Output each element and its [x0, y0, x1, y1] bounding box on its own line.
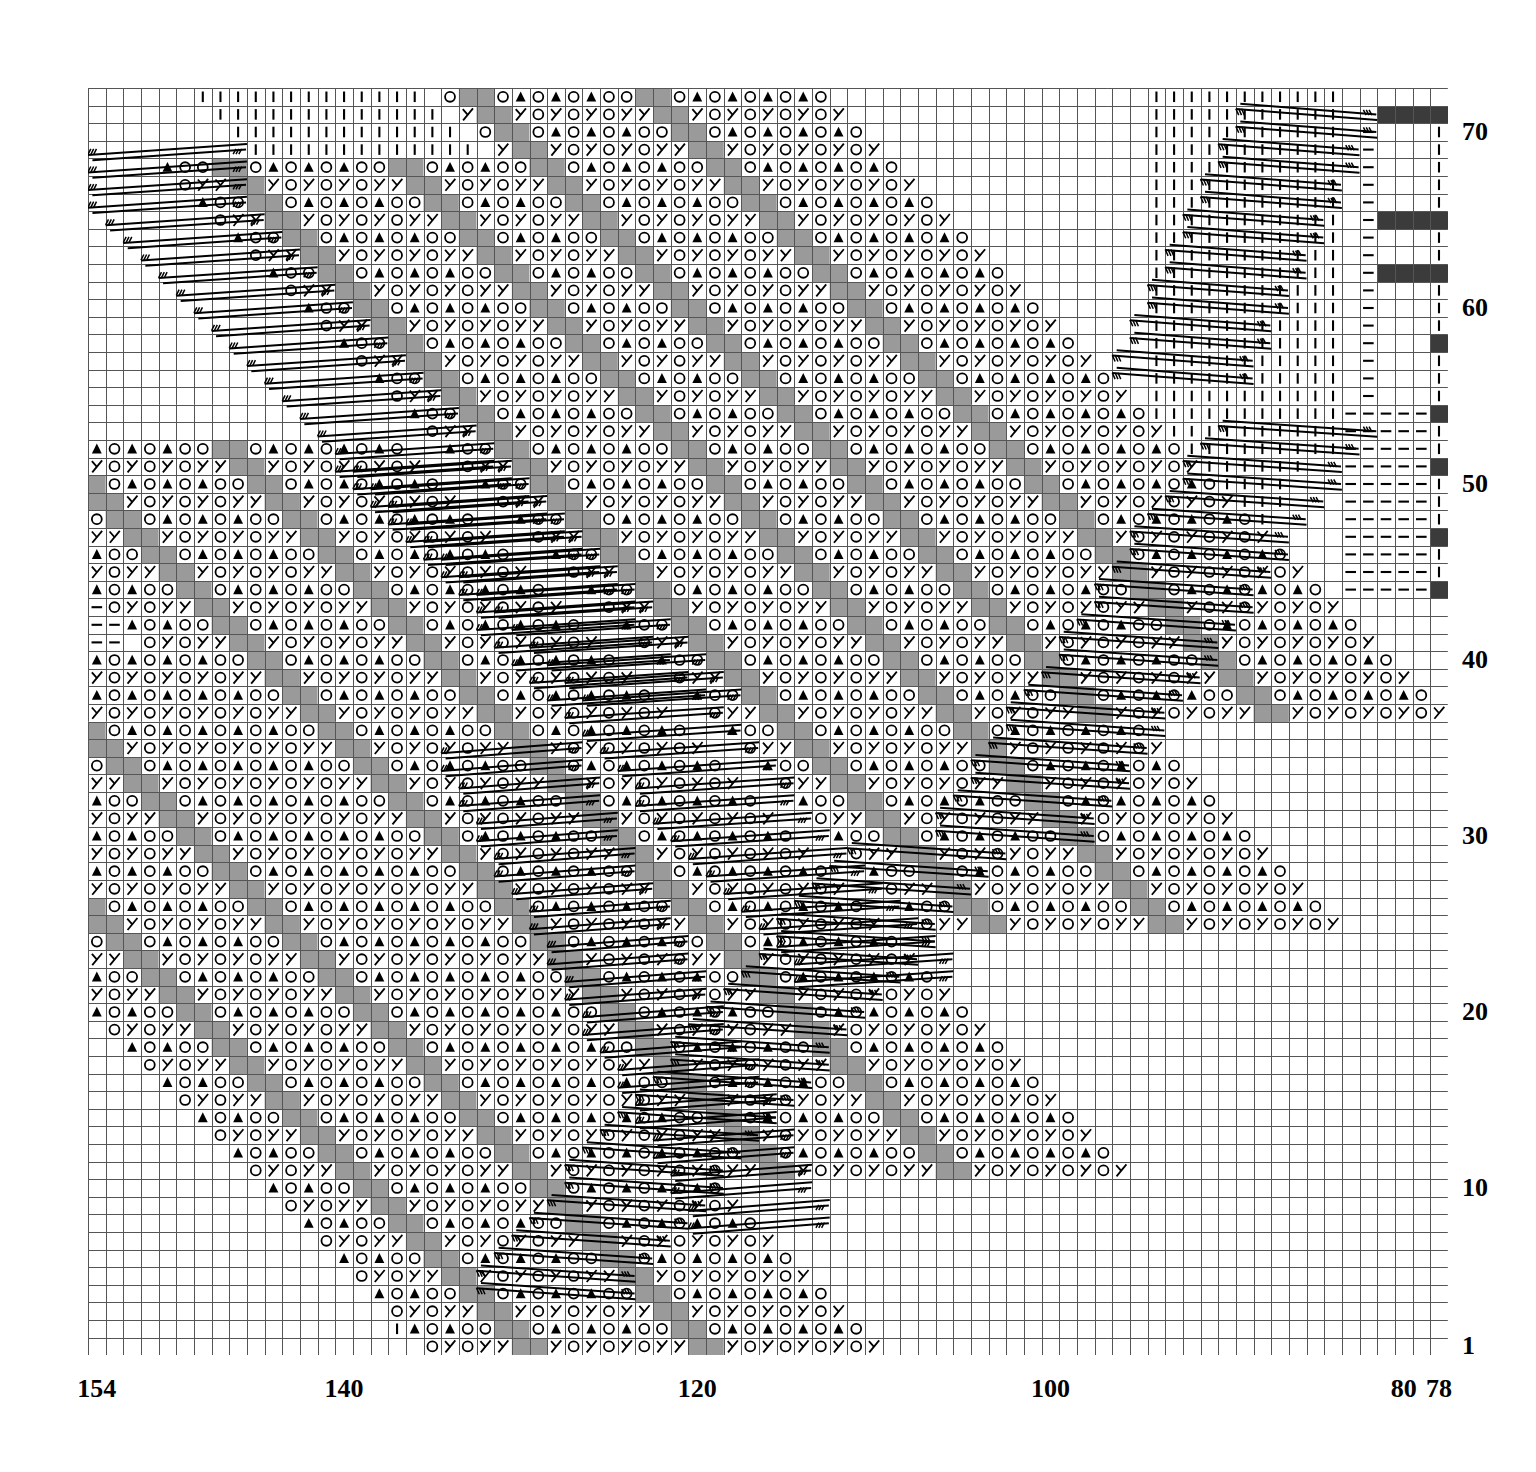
row-tick-label: 30: [1462, 821, 1488, 851]
row-tick-label: 1: [1462, 1331, 1475, 1361]
row-tick-label: 60: [1462, 293, 1488, 323]
row-tick-label: 50: [1462, 469, 1488, 499]
row-tick-label: 20: [1462, 997, 1488, 1027]
knitting-chart: 110203040506070 1541401201008078: [0, 0, 1536, 1472]
stitch-tick-label: 120: [678, 1374, 717, 1404]
chart-grid-area: [88, 88, 1448, 1355]
stitch-tick-label: 78: [1426, 1374, 1452, 1404]
row-tick-label: 70: [1462, 117, 1488, 147]
row-tick-label: 40: [1462, 645, 1488, 675]
row-tick-label: 10: [1462, 1173, 1488, 1203]
chart-grid-canvas: [88, 88, 1448, 1355]
stitch-tick-label: 80: [1391, 1374, 1417, 1404]
stitch-tick-label: 140: [325, 1374, 364, 1404]
stitch-tick-label: 154: [77, 1374, 116, 1404]
stitch-tick-label: 100: [1031, 1374, 1070, 1404]
